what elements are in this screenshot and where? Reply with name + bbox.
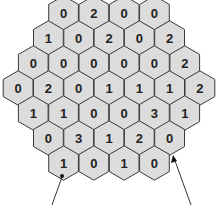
hex-value: 1 (105, 131, 112, 146)
arrowhead-icon (171, 155, 177, 163)
hex-value: 1 (181, 106, 188, 121)
hex-value: 1 (30, 106, 37, 121)
hex-cells: 0200102020000020201112110031031201010 (3, 0, 215, 180)
hex-value: 0 (151, 56, 158, 71)
hex-value: 2 (166, 31, 173, 46)
hex-value: 0 (121, 106, 128, 121)
hex-value: 0 (60, 6, 67, 21)
hex-value: 0 (30, 56, 37, 71)
hex-value: 1 (105, 81, 112, 96)
hex-value: 1 (45, 31, 52, 46)
right-pointer-line (174, 158, 191, 205)
hex-value: 0 (60, 56, 67, 71)
hex-value: 0 (90, 56, 97, 71)
hex-value: 0 (121, 56, 128, 71)
hex-value: 0 (136, 31, 143, 46)
dot-marker (60, 174, 64, 178)
hex-value: 2 (181, 56, 188, 71)
hex-value: 0 (90, 106, 97, 121)
hex-value: 1 (136, 81, 143, 96)
hex-value: 0 (151, 6, 158, 21)
hex-value: 0 (90, 156, 97, 171)
hex-value: 0 (151, 156, 158, 171)
hex-value: 3 (151, 106, 158, 121)
hex-value: 2 (136, 131, 143, 146)
hex-value: 3 (75, 131, 82, 146)
hex-value: 1 (121, 156, 128, 171)
hex-value: 2 (105, 31, 112, 46)
hex-value: 0 (45, 131, 52, 146)
hex-value: 0 (75, 31, 82, 46)
hex-value: 2 (45, 81, 52, 96)
hex-value: 2 (90, 6, 97, 21)
left-pointer-line (52, 177, 62, 205)
hex-value: 0 (121, 6, 128, 21)
hex-value: 0 (75, 81, 82, 96)
hex-value: 1 (60, 156, 67, 171)
hex-value: 0 (166, 131, 173, 146)
hex-value: 1 (60, 106, 67, 121)
hex-grid-diagram: 0200102020000020201112110031031201010 (0, 0, 216, 205)
hex-value: 1 (166, 81, 173, 96)
hex-value: 2 (196, 81, 203, 96)
hex-value: 0 (14, 81, 21, 96)
